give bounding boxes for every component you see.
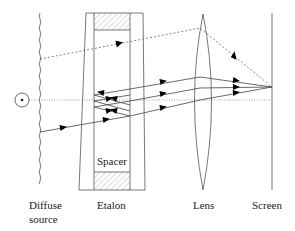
diffuse-source — [39, 13, 41, 184]
spacer-bottom-hatch — [94, 172, 130, 190]
source-label: source — [29, 213, 58, 225]
etalon-label: Etalon — [97, 199, 126, 211]
spacer-top-hatch — [94, 13, 130, 30]
dashed-ray — [40, 28, 272, 87]
diffuse-label: Diffuse — [29, 199, 62, 211]
lens — [195, 14, 212, 190]
arrowheads — [59, 77, 240, 131]
lens-label: Lens — [193, 199, 214, 211]
screen-label: Screen — [252, 199, 282, 211]
etalon-diagram — [0, 0, 295, 231]
spacer-label: Spacer — [97, 155, 127, 167]
ray-bundle — [40, 77, 272, 132]
point-source-icon — [15, 93, 29, 107]
